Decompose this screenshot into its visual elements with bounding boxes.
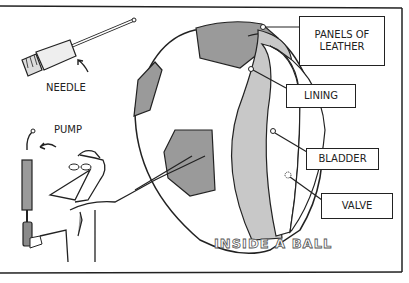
frame-bottom-line — [0, 272, 402, 273]
bladder-label: BLADDER — [306, 148, 379, 170]
frame-top-line — [0, 6, 402, 8]
valve-label: VALVE — [321, 193, 393, 219]
lining-pointer-icon — [249, 67, 254, 72]
panels-of-leather-label: PANELS OF LEATHER — [299, 16, 385, 66]
pump-label: PUMP — [54, 124, 82, 135]
needle-arrow-icon — [78, 60, 88, 72]
needle-icon — [22, 18, 136, 76]
needle-label: NEEDLE — [46, 82, 86, 93]
pump-arrow-icon — [40, 143, 56, 149]
panels-pointer-icon — [261, 25, 266, 30]
bladder-pointer-icon — [271, 129, 276, 134]
lining-label: LINING — [286, 84, 356, 108]
diagram-title: INSIDE A BALL — [214, 236, 332, 251]
ball-icon — [134, 22, 325, 254]
pump-icon — [22, 129, 35, 246]
